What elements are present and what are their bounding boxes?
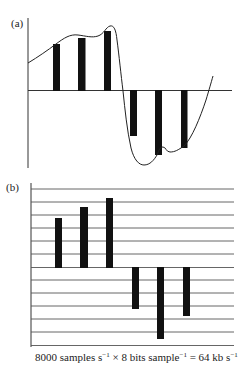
- panel-a: (a): [11, 17, 232, 168]
- panel-b-quantized-bar-1: [55, 218, 62, 268]
- panel-a-sample-bar-6: [181, 90, 188, 148]
- panel-b-label: (b): [6, 181, 19, 194]
- panel-a-sample-bar-3: [104, 31, 111, 91]
- pcm-diagram: (a) (b): [0, 0, 249, 372]
- panel-b-quantized-bar-2: [80, 207, 88, 268]
- caption-part-2: × 8 bits sample: [110, 351, 180, 363]
- panel-a-label: (a): [11, 17, 24, 30]
- panel-a-sample-bar-5: [155, 90, 162, 155]
- bitrate-caption: 8000 samples s−1 × 8 bits sample−1 = 64 …: [35, 351, 238, 363]
- panel-b-quantized-bar-6: [183, 267, 190, 316]
- panel-b: (b): [6, 181, 234, 347]
- panel-a-sample-bar-4: [130, 90, 137, 136]
- panel-b-quantized-bar-5: [157, 267, 164, 339]
- panel-b-quantized-bar-3: [106, 198, 113, 268]
- panel-b-quantized-bar-4: [132, 267, 139, 309]
- caption-part-3: = 64 kb s: [187, 351, 230, 363]
- caption-sup-3: −1: [230, 351, 238, 359]
- caption-part-1: 8000 samples s: [35, 351, 102, 363]
- panel-a-sample-bar-1: [53, 44, 60, 91]
- panel-a-sample-bar-2: [78, 38, 86, 91]
